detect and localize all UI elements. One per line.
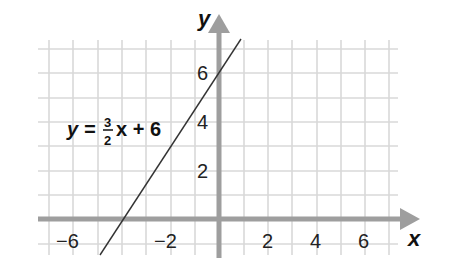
x-tick-label: 6 xyxy=(358,230,369,252)
coordinate-plane: y x −6 −2 2 4 6 6 4 2 y = 3 2 x + 6 xyxy=(0,0,454,261)
x-tick-label: −6 xyxy=(56,230,79,252)
x-tick-label: 4 xyxy=(310,230,321,252)
equation-fraction-denominator: 2 xyxy=(104,133,111,148)
y-tick-label: 4 xyxy=(197,111,208,133)
equation-rhs: x + 6 xyxy=(116,118,161,140)
y-axis-label: y xyxy=(197,6,212,31)
x-tick-label: 2 xyxy=(262,230,273,252)
equation-lhs: y = xyxy=(66,118,96,140)
equation-fraction-numerator: 3 xyxy=(104,115,111,130)
x-axis xyxy=(38,208,420,230)
y-axis-arrow-icon xyxy=(208,14,230,33)
x-axis-label: x xyxy=(407,226,421,251)
y-tick-label: 6 xyxy=(197,62,208,84)
x-tick-label: −2 xyxy=(154,230,177,252)
y-tick-label: 2 xyxy=(197,160,208,182)
